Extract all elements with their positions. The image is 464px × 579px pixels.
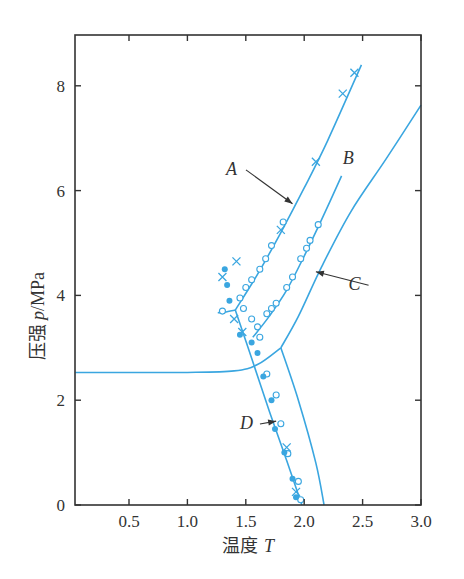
filled-dot-marker	[272, 426, 278, 432]
open-circle-marker	[257, 266, 263, 272]
x-tick-label: 1.5	[235, 512, 256, 531]
filled-dot-marker	[290, 476, 296, 482]
chart-markers	[218, 69, 358, 503]
curve-label-d: D	[239, 413, 253, 433]
x-tick-label: 1.0	[177, 512, 198, 531]
open-circle-marker	[273, 392, 279, 398]
open-circle-marker	[273, 300, 279, 306]
curve-label-c: C	[349, 274, 362, 294]
curve-d	[235, 310, 302, 505]
open-circle-marker	[307, 237, 313, 243]
open-circle-marker	[268, 306, 274, 312]
plot-frame	[75, 35, 421, 505]
open-circle-marker	[263, 256, 269, 262]
phase-diagram-chart: ABCD 0.51.01.52.02.53.0 02468 温度T 压强p/MP…	[0, 0, 464, 579]
open-circle-marker	[268, 243, 274, 249]
open-circle-marker	[240, 306, 246, 312]
open-circle-marker	[295, 478, 301, 484]
open-circle-marker	[284, 285, 290, 291]
curve-right-boundary	[281, 348, 324, 505]
cross-marker	[230, 315, 238, 323]
annotation-arrow	[246, 170, 293, 204]
open-circle-marker	[290, 274, 296, 280]
open-circle-marker	[249, 316, 255, 322]
cross-marker	[339, 90, 347, 98]
x-axis-ticks: 0.51.01.52.02.53.0	[118, 35, 431, 531]
y-tick-label: 0	[57, 496, 66, 515]
y-tick-label: 6	[57, 182, 66, 201]
open-circle-marker	[280, 219, 286, 225]
x-tick-label: 2.5	[352, 512, 373, 531]
open-circle-marker	[237, 295, 243, 301]
annotation-arrow	[316, 272, 369, 285]
filled-dot-marker	[249, 340, 255, 346]
filled-dot-marker	[226, 298, 232, 304]
y-axis-label: 压强p/MPa	[28, 272, 48, 360]
filled-dot-marker	[268, 397, 274, 403]
filled-dot-marker	[224, 282, 230, 288]
arrow-head-icon	[284, 197, 292, 204]
filled-dot-marker	[293, 494, 299, 500]
curve-a	[235, 65, 361, 310]
x-tick-label: 0.5	[118, 512, 139, 531]
filled-dot-marker	[222, 266, 228, 272]
cross-marker	[232, 257, 240, 265]
open-circle-marker	[257, 334, 263, 340]
y-tick-label: 8	[57, 77, 66, 96]
x-axis-label: 温度T	[222, 536, 276, 556]
open-circle-marker	[219, 308, 225, 314]
open-circle-marker	[249, 277, 255, 283]
open-circle-marker	[298, 256, 304, 262]
cross-marker	[283, 443, 291, 451]
curve-c	[281, 105, 421, 348]
open-circle-marker	[254, 324, 260, 330]
y-tick-label: 4	[57, 286, 66, 305]
filled-dot-marker	[260, 374, 266, 380]
cross-marker	[218, 273, 226, 281]
curve-label-b: B	[343, 148, 354, 168]
open-circle-marker	[278, 421, 284, 427]
filled-dot-marker	[254, 350, 260, 356]
curve-label-a: A	[225, 159, 238, 179]
open-circle-marker	[304, 245, 310, 251]
x-tick-label: 2.0	[294, 512, 315, 531]
open-circle-marker	[243, 285, 249, 291]
x-tick-label: 3.0	[410, 512, 431, 531]
arrow-head-icon	[268, 420, 276, 426]
open-circle-marker	[315, 222, 321, 228]
y-tick-label: 2	[57, 391, 66, 410]
open-circle-marker	[264, 311, 270, 317]
